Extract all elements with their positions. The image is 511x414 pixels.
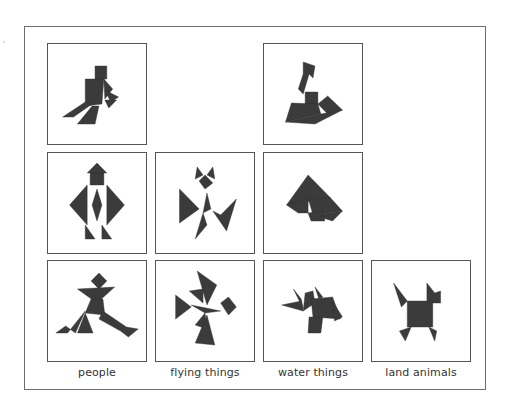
tangram-figure-person-running xyxy=(48,261,146,361)
tangram-piece xyxy=(429,327,437,341)
tangram-piece xyxy=(427,283,441,303)
tangram-piece xyxy=(315,287,323,299)
tangram-piece xyxy=(195,167,203,179)
tangram-piece xyxy=(102,225,112,239)
tangram-piece xyxy=(92,189,102,221)
tangram-piece xyxy=(85,225,95,239)
tangram-piece xyxy=(99,311,138,337)
tangram-piece xyxy=(221,297,237,315)
tangram-cell-person-standing xyxy=(47,152,147,254)
tangram-figure-bird-figure xyxy=(156,153,254,253)
tangram-piece xyxy=(176,295,192,319)
tangram-figure-fish xyxy=(264,261,362,361)
tangram-figure-dog xyxy=(372,261,470,361)
label-land-animals: land animals xyxy=(366,366,476,379)
scan-speck xyxy=(3,41,5,43)
tangram-piece xyxy=(95,66,107,79)
tangram-piece xyxy=(308,317,323,333)
tangram-cell-bird-figure xyxy=(155,152,255,254)
tangram-figure-pinwheel xyxy=(156,261,254,361)
tangram-piece xyxy=(105,100,117,108)
label-water-things: water things xyxy=(258,366,368,379)
tangram-piece xyxy=(207,167,215,179)
tangram-piece xyxy=(195,315,215,345)
tangram-piece xyxy=(90,173,104,185)
tangram-cell-person-running xyxy=(47,260,147,362)
tangram-piece xyxy=(213,199,237,231)
tangram-cell-people-sitting xyxy=(47,43,147,145)
tangram-piece xyxy=(70,185,88,225)
tangram-piece xyxy=(333,301,343,321)
tangram-piece xyxy=(399,327,411,341)
tangram-piece xyxy=(298,62,315,94)
tangram-piece xyxy=(282,301,304,311)
label-flying-things: flying things xyxy=(150,366,260,379)
tangram-piece xyxy=(407,301,432,327)
tangram-figure-boat xyxy=(264,44,362,144)
tangram-piece xyxy=(394,283,408,307)
tangram-figure-people-sitting xyxy=(48,44,146,144)
tangram-piece xyxy=(305,92,318,104)
tangram-piece xyxy=(191,305,220,313)
tangram-piece xyxy=(87,163,107,173)
tangram-piece xyxy=(308,211,325,221)
tangram-cell-sailboat-mound xyxy=(263,152,363,254)
tangram-cell-dog xyxy=(371,260,471,362)
tangram-cell-boat xyxy=(263,43,363,145)
tangram-piece xyxy=(195,213,207,239)
label-people: people xyxy=(42,366,152,379)
tangram-piece xyxy=(107,185,125,225)
tangram-figure-person-standing xyxy=(48,153,146,253)
tangram-figure-sailboat-mound xyxy=(264,153,362,253)
tangram-piece xyxy=(180,189,200,223)
tangram-cell-fish xyxy=(263,260,363,362)
tangram-piece xyxy=(203,193,211,213)
tangram-piece xyxy=(189,289,203,303)
tangram-cell-pinwheel xyxy=(155,260,255,362)
tangram-piece xyxy=(91,273,107,289)
